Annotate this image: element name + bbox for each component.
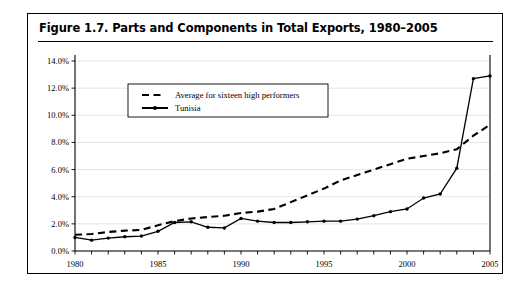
svg-text:0.0%: 0.0% (51, 246, 69, 256)
legend-box (128, 84, 328, 117)
chart-legend: Average for sixteen high performers Tuni… (128, 84, 328, 117)
svg-text:14.0%: 14.0% (47, 56, 69, 66)
chart-plot-area: 0.0%2.0%4.0%6.0%8.0%10.0%12.0%14.0% 1980… (28, 14, 504, 275)
svg-text:12.0%: 12.0% (47, 83, 69, 93)
svg-text:4.0%: 4.0% (51, 192, 69, 202)
line-chart: 0.0%2.0%4.0%6.0%8.0%10.0%12.0%14.0% 1980… (28, 14, 504, 275)
svg-text:1990: 1990 (233, 259, 250, 269)
svg-text:1985: 1985 (150, 259, 167, 269)
legend-marker-tunisia (153, 106, 157, 110)
y-axis-tick-labels: 0.0%2.0%4.0%6.0%8.0%10.0%12.0%14.0% (47, 56, 69, 256)
svg-text:2005: 2005 (482, 259, 499, 269)
svg-text:2.0%: 2.0% (51, 219, 69, 229)
legend-label-tunisia: Tunisia (175, 103, 201, 113)
legend-label-average: Average for sixteen high performers (175, 90, 300, 100)
figure-frame: Figure 1.7. Parts and Components in Tota… (27, 13, 503, 274)
svg-text:10.0%: 10.0% (47, 110, 69, 120)
svg-text:1995: 1995 (316, 259, 333, 269)
svg-text:6.0%: 6.0% (51, 165, 69, 175)
x-axis-tick-labels: 198019851990199520002005 (67, 259, 499, 269)
svg-text:2000: 2000 (399, 259, 416, 269)
series-line-average (75, 125, 490, 235)
svg-text:8.0%: 8.0% (51, 137, 69, 147)
svg-text:1980: 1980 (67, 259, 84, 269)
